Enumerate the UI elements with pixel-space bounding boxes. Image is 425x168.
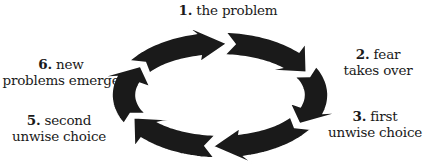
cycle-arrows (101, 26, 340, 164)
step-2-line1: fear (374, 46, 401, 62)
step-1-text: the problem (196, 2, 277, 18)
cycle-arrow-step-1 (129, 26, 226, 73)
step-2-line2: takes over (338, 62, 418, 78)
step-3-line2: unwise choice (322, 124, 425, 140)
label-step-1: 1. the problem (148, 2, 308, 18)
cycle-arrow-step-5 (134, 118, 216, 158)
step-6-number: 6. (38, 56, 52, 72)
step-6-line1: new (56, 56, 84, 72)
cycle-arrow-step-2 (224, 32, 306, 72)
label-step-5: 5. second unwise choice (6, 112, 112, 144)
label-step-3: 3. first unwise choice (322, 108, 425, 140)
step-5-line1: second (45, 112, 92, 128)
label-step-2: 2. fear takes over (338, 46, 418, 78)
label-step-6: 6. new problems emerge (0, 56, 122, 88)
step-3-number: 3. (353, 108, 367, 124)
cycle-arrow-step-4 (213, 117, 310, 164)
step-5-number: 5. (27, 112, 41, 128)
step-5-line2: unwise choice (6, 128, 112, 144)
step-2-number: 2. (356, 46, 370, 62)
step-6-line2: problems emerge (0, 72, 122, 88)
step-1-number: 1. (179, 2, 193, 18)
step-3-line1: first (370, 108, 397, 124)
